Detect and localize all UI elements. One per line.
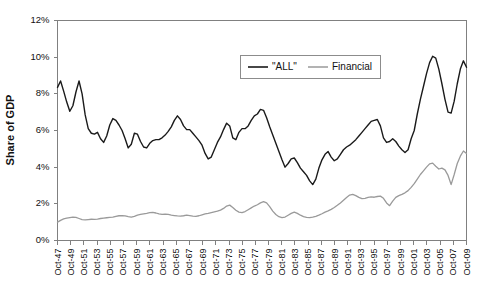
- y-axis-ticks: [54, 21, 58, 241]
- x-axis-tick-label: Oct-85: [303, 249, 313, 276]
- x-axis-tick-label: Oct-63: [158, 249, 168, 276]
- x-axis-tick-label: Oct-01: [409, 249, 419, 276]
- x-axis-tick-label: Oct-83: [290, 249, 300, 276]
- legend-label-financial: Financial: [332, 61, 372, 72]
- y-axis-tick-label: 6%: [36, 124, 50, 135]
- y-axis-tick-label: 4%: [36, 161, 50, 172]
- x-axis-tick-label: Oct-03: [422, 249, 432, 276]
- x-axis-tick-label: Oct-97: [382, 249, 392, 276]
- legend: "ALL" Financial: [241, 56, 381, 79]
- x-axis-tick-label: Oct-89: [330, 249, 340, 276]
- x-axis-tick-label: Oct-67: [184, 249, 194, 276]
- y-axis-tick-label: 8%: [36, 87, 50, 98]
- x-axis-tick-label: Oct-93: [356, 249, 366, 276]
- x-axis-tick-label: Oct-61: [145, 249, 155, 276]
- y-axis-tick-labels: 0%2%4%6%8%10%12%: [30, 14, 50, 245]
- x-axis-tick-label: Oct-75: [237, 248, 247, 275]
- x-axis-tick-label: Oct-91: [343, 249, 353, 276]
- x-axis-tick-label: Oct-79: [264, 249, 274, 276]
- x-axis-tick-label: Oct-65: [171, 249, 181, 276]
- x-axis-tick-label: Oct-47: [53, 249, 63, 276]
- x-axis-tick-label: Oct-81: [277, 249, 287, 276]
- chart-container: 0%2%4%6%8%10%12% Oct-47Oct-49Oct-51Oct-5…: [0, 0, 482, 301]
- x-axis-tick-label: Oct-05: [435, 249, 445, 276]
- x-axis-tick-label: Oct-69: [198, 249, 208, 276]
- x-axis-tick-label: Oct-55: [105, 249, 115, 276]
- legend-label-all: "ALL": [272, 61, 297, 72]
- line-chart: 0%2%4%6%8%10%12% Oct-47Oct-49Oct-51Oct-5…: [0, 0, 482, 301]
- x-axis-tick-label: Oct-87: [316, 249, 326, 276]
- x-axis-tick-label: Oct-71: [211, 249, 221, 276]
- y-axis-tick-label: 10%: [30, 51, 50, 62]
- y-axis-tick-label: 2%: [36, 197, 50, 208]
- x-axis-tick-label: Oct-53: [92, 249, 102, 276]
- x-axis-tick-label: Oct-77: [250, 249, 260, 276]
- x-axis-tick-label: Oct-59: [132, 249, 142, 276]
- x-axis-tick-label: Oct-57: [118, 249, 128, 276]
- x-axis-tick-label: Oct-09: [462, 249, 472, 276]
- x-axis-tick-labels: Oct-47Oct-49Oct-51Oct-53Oct-55Oct-57Oct-…: [53, 248, 472, 275]
- x-axis-tick-label: Oct-73: [224, 248, 234, 275]
- series-line-financial: [58, 151, 467, 222]
- x-axis-tick-label: Oct-51: [79, 249, 89, 276]
- x-axis-tick-label: Oct-95: [369, 249, 379, 276]
- x-axis-tick-label: Oct-99: [396, 249, 406, 276]
- x-axis-ticks: [58, 241, 467, 245]
- x-axis-tick-label: Oct-49: [66, 249, 76, 276]
- y-axis-tick-label: 12%: [30, 14, 50, 25]
- y-axis-tick-label: 0%: [36, 234, 50, 245]
- y-axis-title: Share of GDP: [4, 95, 16, 166]
- x-axis-tick-label: Oct-07: [448, 249, 458, 276]
